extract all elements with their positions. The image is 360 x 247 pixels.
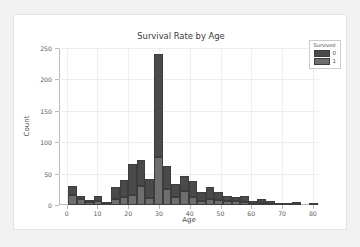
histogram-bar [171, 184, 180, 205]
bar-segment-survived-0 [85, 200, 94, 202]
bar-segment-survived-0 [257, 199, 266, 203]
x-tick [97, 205, 98, 209]
legend-item: 1 [314, 58, 336, 65]
bar-segment-survived-1 [68, 195, 77, 205]
figure-card: Survival Rate by Age Count Age 050100150… [13, 14, 347, 230]
y-tick [55, 174, 59, 175]
bar-segment-survived-0 [266, 201, 275, 204]
histogram-bar [128, 164, 137, 205]
y-tick-label: 200 [40, 76, 52, 83]
bar-segment-survived-1 [206, 199, 215, 205]
bar-segment-survived-1 [180, 191, 189, 205]
x-tick [128, 205, 129, 209]
bar-segment-survived-1 [197, 201, 206, 205]
bar-segment-survived-1 [171, 197, 180, 205]
legend-label: 1 [333, 59, 336, 64]
legend-entries: 01 [314, 50, 336, 65]
x-tick-label: 30 [155, 210, 163, 217]
bar-segment-survived-1 [120, 197, 129, 205]
x-tick [282, 205, 283, 209]
bar-segment-survived-0 [163, 166, 172, 189]
bar-segment-survived-0 [214, 192, 223, 200]
histogram-bar [275, 203, 284, 205]
bar-segment-survived-1 [189, 197, 198, 205]
histogram-bar [145, 179, 154, 205]
histogram-bar [94, 196, 103, 205]
histogram-bar [283, 204, 292, 205]
histogram-bar [206, 187, 215, 205]
bar-segment-survived-1 [85, 202, 94, 205]
histogram-bar [85, 200, 94, 205]
histogram-bar [180, 175, 189, 205]
histogram-bar [257, 199, 266, 205]
x-tick [221, 205, 222, 209]
bar-segment-survived-0 [197, 192, 206, 201]
histogram-bar [120, 180, 129, 205]
bar-segment-survived-0 [180, 176, 189, 192]
histogram-bar [68, 186, 77, 205]
bar-segment-survived-1 [145, 198, 154, 205]
bar-segment-survived-0 [102, 202, 111, 204]
plot-area: 05010015020025001020304050607080 [59, 48, 319, 205]
bar-segment-survived-1 [77, 199, 86, 205]
x-tick [251, 205, 252, 209]
x-axis-title: Age [59, 216, 319, 224]
x-tick [159, 205, 160, 209]
histogram-bar [223, 196, 232, 205]
x-tick-label: 10 [94, 210, 102, 217]
histogram-bar [240, 196, 249, 205]
bar-segment-survived-0 [309, 203, 318, 205]
y-tick [55, 111, 59, 112]
histogram-bar [214, 192, 223, 205]
bar-segment-survived-0 [292, 202, 301, 204]
legend-swatch [314, 50, 330, 57]
bar-segment-survived-0 [206, 187, 215, 199]
gridline-vertical [67, 48, 68, 205]
y-tick [55, 79, 59, 80]
gridline-vertical [97, 48, 98, 205]
y-tick-label: 150 [40, 107, 52, 114]
y-tick [55, 48, 59, 49]
y-tick [55, 205, 59, 206]
bar-segment-survived-0 [232, 197, 241, 201]
legend-swatch [314, 58, 330, 65]
bar-segment-survived-1 [137, 186, 146, 205]
bar-segment-survived-1 [223, 201, 232, 205]
x-tick [190, 205, 191, 209]
bar-segment-survived-1 [94, 201, 103, 205]
y-tick-label: 250 [40, 45, 52, 52]
bar-segment-survived-0 [240, 196, 249, 202]
histogram-bar [189, 181, 198, 205]
bar-segment-survived-0 [145, 179, 154, 198]
bar-segment-survived-0 [111, 187, 120, 200]
plot-wrapper: Survival Rate by Age Count Age 050100150… [14, 15, 348, 231]
histogram-bar [292, 203, 301, 206]
y-axis-line [59, 48, 60, 205]
x-tick [67, 205, 68, 209]
bar-segment-survived-1 [240, 202, 249, 205]
x-tick-label: 50 [217, 210, 225, 217]
bar-segment-survived-0 [275, 203, 284, 205]
bar-segment-survived-1 [257, 203, 266, 205]
gridline-vertical [282, 48, 283, 205]
bar-segment-survived-1 [232, 201, 241, 205]
histogram-bar [77, 196, 86, 205]
histogram-bar [154, 54, 163, 205]
bar-segment-survived-0 [171, 184, 180, 197]
histogram-bar [102, 203, 111, 205]
bar-segment-survived-0 [68, 186, 77, 195]
y-tick-label: 50 [44, 170, 52, 177]
y-tick-label: 0 [48, 202, 52, 209]
x-tick-label: 80 [309, 210, 317, 217]
bar-segment-survived-0 [120, 180, 129, 198]
bar-segment-survived-1 [214, 200, 223, 205]
bar-segment-survived-0 [77, 196, 86, 199]
bar-segment-survived-0 [223, 196, 232, 201]
histogram-bar [197, 192, 206, 205]
bar-segment-survived-0 [283, 203, 292, 205]
x-tick-label: 40 [186, 210, 194, 217]
bar-segment-survived-0 [189, 181, 198, 197]
histogram-bar [249, 201, 258, 205]
histogram-bar [309, 204, 318, 205]
chart-title: Survival Rate by Age [14, 31, 348, 41]
